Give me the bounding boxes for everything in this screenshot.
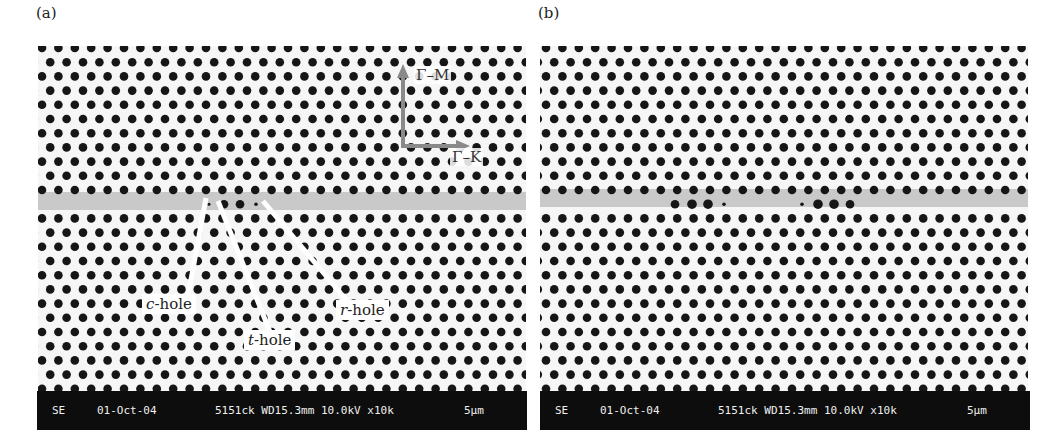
t-hole-label: t-hole — [244, 330, 295, 350]
sem-scale: 5µm — [967, 404, 987, 417]
panel-b-label: (b) — [538, 4, 559, 22]
gamma-k-direction-label: Γ–K — [450, 148, 483, 166]
sem-mode: SE — [555, 404, 568, 417]
sem-mode: SE — [52, 404, 65, 417]
sem-image-panel-b — [540, 46, 1028, 393]
sem-scale: 5µm — [464, 404, 484, 417]
c-hole-label: c-hole — [142, 294, 196, 314]
gamma-m-direction-label: Γ–M — [414, 66, 451, 84]
panel-a-label: (a) — [36, 4, 57, 22]
sem-image-panel-a: Γ–M Γ–K c-hole t-hole r-hole — [38, 46, 526, 393]
sem-parameters: 5151ck WD15.3mm 10.0kV x10k — [718, 404, 897, 417]
sem-info-bar-b: SE 01-Oct-04 5151ck WD15.3mm 10.0kV x10k… — [540, 391, 1030, 430]
sem-date: 01-Oct-04 — [97, 404, 157, 417]
r-hole-label: r-hole — [336, 300, 389, 320]
sem-info-bar-a: SE 01-Oct-04 5151ck WD15.3mm 10.0kV x10k… — [37, 391, 527, 430]
sem-parameters: 5151ck WD15.3mm 10.0kV x10k — [215, 404, 394, 417]
photonic-crystal-lattice-b — [540, 46, 1028, 393]
sem-date: 01-Oct-04 — [600, 404, 660, 417]
